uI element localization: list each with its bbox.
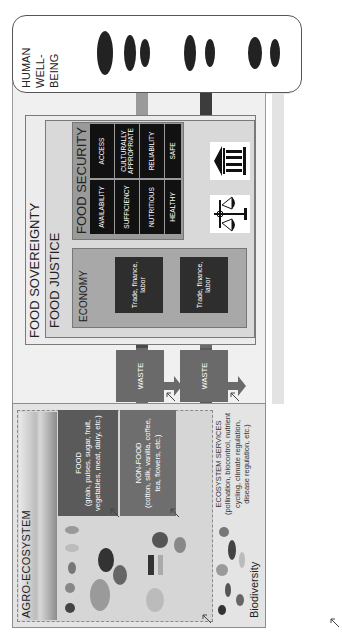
justice-scale-icon (210, 195, 250, 233)
pig-icon (98, 548, 114, 572)
food-sovereignty-title: FOOD SOVEREIGNTY (27, 203, 42, 338)
trade-finance-labor-box: Trade, finance, labor (115, 257, 163, 313)
berry-icon (65, 603, 75, 613)
food-security-title: FOOD SECURITY (74, 127, 89, 234)
expand-icon[interactable] (330, 618, 340, 628)
ecosystem-services-title: ECOSYSTEM SERVICES (214, 410, 223, 518)
tea-icon (174, 537, 186, 553)
expand-icon[interactable] (166, 392, 176, 402)
agro-ecosystem-title: AGRO-ECOSYSTEM (20, 510, 32, 618)
ecosystem-services-arrow (265, 82, 291, 404)
food-goods-illustration (60, 520, 210, 620)
family-group-icon (97, 31, 150, 75)
non-food-detail: (cotton, silk, vanilla, coffee, tea, flo… (143, 414, 162, 512)
bottle-icon-2 (158, 555, 163, 575)
trade-label: Trade, finance, labor (131, 257, 148, 313)
corn-icon (65, 544, 79, 552)
people-silhouettes (85, 23, 295, 83)
hwb-line-3: BEING (48, 18, 62, 88)
security-cell-reliability: RELIABILITY (140, 124, 164, 178)
coffee-icon (152, 532, 168, 548)
security-cell-nutritious: NUTRITIOUS (140, 180, 164, 234)
waste-label: WASTE (200, 363, 209, 389)
snake-icon (228, 540, 236, 560)
ecosystem-services-text: ECOSYSTEM SERVICES (pollination, biocont… (214, 410, 252, 518)
vegetable-icon (68, 562, 76, 574)
textile-icon (146, 588, 164, 612)
security-cell-healthy: HEALTHY (165, 180, 181, 234)
family-group-icon (248, 37, 280, 69)
expand-icon[interactable] (230, 392, 240, 402)
food-box: FOOD (grain, pulses, sugar, fruit, veget… (58, 410, 118, 516)
frog-icon (236, 594, 244, 606)
goat-icon (113, 565, 127, 585)
expand-icon[interactable] (202, 614, 212, 624)
biodiversity-illustration (214, 520, 248, 620)
economy-title: ECONOMY (78, 270, 89, 322)
expand-icon[interactable] (170, 508, 180, 518)
beetle-icon (218, 605, 226, 615)
biodiversity-label: Biodiversity (248, 562, 260, 618)
security-cell-availability: AVAILABILITY (90, 180, 114, 234)
grain-icon (65, 526, 79, 534)
food-detail: (grain, pulses, sugar, fruit, vegetables… (83, 414, 102, 512)
trade-label: Trade, finance, labor (196, 257, 213, 313)
security-cell-sufficiency: SUFFICIENCY (115, 180, 139, 234)
bottle-icon (148, 555, 154, 575)
security-cell-culturally-appropriate: CULTURALLY APPROPRIATE (115, 124, 139, 178)
cow-icon (90, 579, 110, 611)
family-group-icon (184, 35, 215, 71)
food-justice-title: FOOD JUSTICE (47, 233, 62, 328)
waste-label: WASTE (136, 363, 145, 389)
ecosystem-services-detail: (pollination, biocontrol, nutrient cycli… (223, 410, 251, 518)
diagram-canvas: AGRO-ECOSYSTEM FOOD (grain, pulses, suga… (0, 0, 342, 638)
human-well-being-title: HUMAN WELL- BEING (20, 18, 61, 88)
trade-finance-labor-box: Trade, finance, labor (180, 257, 228, 313)
hwb-line-1: HUMAN (20, 18, 34, 88)
fish-icon (239, 552, 245, 568)
non-food-box: NON-FOOD (cotton, silk, vanilla, coffee,… (120, 410, 176, 516)
hwb-line-2: WELL- (34, 18, 48, 88)
security-cell-safe: SAFE (165, 124, 181, 178)
food-title: FOOD (74, 414, 83, 512)
waste-box: WASTE (116, 350, 164, 402)
butterfly-icon (219, 527, 229, 537)
bird-icon (216, 564, 228, 576)
institution-icon (210, 142, 250, 180)
expand-icon[interactable] (110, 508, 120, 518)
security-cell-access: ACCESS (90, 124, 114, 178)
waste-box: WASTE (180, 350, 228, 402)
fruit-icon (65, 583, 75, 593)
non-food-title: NON-FOOD (134, 414, 143, 512)
lizard-icon (225, 583, 231, 597)
